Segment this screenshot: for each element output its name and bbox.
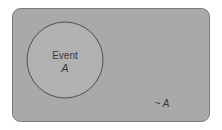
complement-label: ~ A (155, 98, 170, 109)
venn-diagram: Event A ~ A (0, 0, 222, 130)
event-a-label: A (60, 62, 68, 74)
event-label: Event (52, 50, 78, 61)
